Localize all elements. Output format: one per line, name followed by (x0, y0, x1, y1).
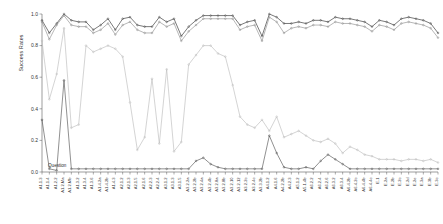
x-tick-label: A5.1.2 (295, 177, 300, 190)
x-tick-label: A1.4.3 (111, 177, 116, 190)
x-tick-label: A3.2.2b (192, 177, 197, 192)
x-tick-label: A4.2.2b (280, 177, 285, 192)
x-tick-label: E.3c (434, 178, 439, 186)
y-tick-label: 0.6 (31, 74, 38, 80)
x-tick-label: A1.3.4 (82, 177, 87, 190)
x-tick-label: E.3a (419, 177, 424, 186)
x-tick-label: A3.2.12 (236, 177, 241, 192)
x-tick-label: A6.4.4c (368, 178, 373, 192)
x-tick-label: A6.4.4b (361, 177, 366, 192)
x-tick-label: A3.2.10 (229, 177, 234, 192)
x-tick-label: A1.2.Ma (60, 177, 65, 193)
x-tick-label: A1.2.2 (53, 177, 58, 190)
x-tick-label: A6.4.2b (346, 177, 351, 192)
x-tick-label: A2.2.3 (148, 177, 153, 190)
series-line-series-4 (42, 80, 438, 170)
x-tick-label: A3.1.5 (177, 177, 182, 190)
x-tick-label: E.2c (397, 178, 402, 186)
x-tick-label: A1.4.2b (104, 177, 109, 192)
x-tick-label: A5.1.4b (302, 177, 307, 192)
series-line-series-2 (42, 16, 438, 41)
x-tick-label: A2.1.5 (133, 177, 138, 190)
y-tick-label: 0.2 (31, 137, 38, 143)
x-tick-label: A3.2.8b (221, 177, 226, 192)
x-tick-label: E.2b (390, 177, 395, 186)
x-tick-label: A3.3.2b (258, 177, 263, 192)
success-rates-line-chart: Success Rates 0.00.20.40.60.81.0A1.1.3A1… (0, 0, 443, 224)
y-tick-label: 0.4 (31, 106, 38, 112)
x-tick-label: A4.2.3 (287, 177, 292, 190)
x-tick-label: E.3b (427, 177, 432, 186)
x-tick-label: A3.2.2a (185, 177, 190, 192)
x-tick-label: A2.1.6 (141, 177, 146, 190)
x-tick-label: A4.1.6 (273, 177, 278, 190)
x-tick-label: A6.2.4 (317, 177, 322, 190)
x-tick-label: A6.2.6 (324, 177, 329, 190)
x-tick-label: A3.1.3 (170, 177, 175, 190)
x-tick-label: A2.1.3 (126, 177, 131, 190)
x-tick-label: A3.2.4a (199, 177, 204, 192)
x-tick-label: A1.2.Mb (67, 177, 72, 193)
x-tick-label: A3.2.4c (251, 178, 256, 192)
x-tick-label: A3.2.8a (214, 177, 219, 192)
y-tick-label: 0.0 (31, 169, 38, 175)
x-tick-label: A6.3.2 (331, 177, 336, 190)
x-tick-label: A3.2.4b (207, 177, 212, 192)
x-tick-label: E.1 (375, 177, 380, 184)
x-tick-label: A3.1.2 (163, 177, 168, 190)
x-tick-label: E.2d (405, 177, 410, 186)
x-tick-label: E.2a (383, 177, 388, 186)
x-tick-label: A1.1.3 (38, 177, 43, 190)
x-tick-label: A2.1.2 (119, 177, 124, 190)
x-tick-label: A1.1.4 (45, 177, 50, 190)
y-tick-label: 0.8 (31, 42, 38, 48)
y-tick-label: 1.0 (31, 11, 38, 17)
x-tick-label: A1.4.2a (97, 177, 102, 192)
x-tick-label: A1.3.2 (75, 177, 80, 190)
x-tick-label: A3.2.2c (243, 178, 248, 192)
x-tick-label: A2.2.4 (155, 177, 160, 190)
x-tick-label: A6.4.2c (353, 178, 358, 192)
x-tick-label: A6.2.2 (309, 177, 314, 190)
x-tick-label: A4.1.2 (265, 177, 270, 190)
x-tick-label: E.2e (412, 177, 417, 186)
plot-area: 0.00.20.40.60.81.0A1.1.3A1.1.4A1.2.2A1.2… (0, 0, 443, 224)
x-tick-label: A1.3.6 (89, 177, 94, 190)
x-tick-label: A6.3.4 (339, 177, 344, 190)
